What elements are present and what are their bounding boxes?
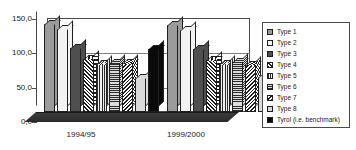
- bar-1994-95-type-7: [122, 63, 133, 112]
- bar-1999-2000-type-4: [206, 60, 217, 112]
- bar-1994-95-type-8: [135, 78, 146, 112]
- y-axis-tick-0: [32, 122, 37, 123]
- y-axis-label-150: 150,0: [2, 15, 32, 23]
- legend-swatch-icon-type-1: [267, 29, 273, 35]
- bars-layer: [36, 18, 250, 122]
- legend-item-type-6: Type 6: [267, 81, 346, 92]
- legend-item-type-3: Type 3: [267, 48, 346, 59]
- x-axis-label-1999-2000: 1999/2000: [151, 131, 221, 139]
- bar-1994-95-type-3: [70, 48, 81, 112]
- legend-label-tyrol-benchmark: Tyrol (i.e. benchmark): [277, 116, 340, 123]
- legend-item-type-2: Type 2: [267, 37, 346, 48]
- legend-swatch-icon-type-2: [267, 40, 273, 46]
- chart-legend: Type 1 Type 2 Type 3 Type 4 Type 5 Type …: [262, 22, 350, 128]
- legend-swatch-icon-type-6: [267, 84, 273, 90]
- legend-label-type-3: Type 3: [277, 50, 297, 57]
- bar-1999-2000-type-6: [232, 62, 243, 112]
- bar-1999-2000-type-5: [219, 64, 230, 112]
- legend-item-type-4: Type 4: [267, 59, 346, 70]
- legend-swatch-icon-type-7: [267, 95, 273, 101]
- legend-item-type-1: Type 1: [267, 26, 346, 37]
- legend-label-type-8: Type 8: [277, 105, 297, 112]
- legend-item-type-8: Type 8: [267, 103, 346, 114]
- legend-label-type-4: Type 4: [277, 61, 297, 68]
- legend-swatch-icon-type-4: [267, 62, 273, 68]
- legend-swatch-icon-type-8: [267, 106, 273, 112]
- legend-swatch-icon-type-5: [267, 73, 273, 79]
- bar-1999-2000-type-1: [167, 25, 178, 112]
- legend-item-type-7: Type 7: [267, 92, 346, 103]
- legend-item-tyrol-benchmark: Tyrol (i.e. benchmark): [267, 114, 346, 125]
- legend-label-type-2: Type 2: [277, 39, 297, 46]
- y-axis-label-100: 100,0: [2, 49, 32, 57]
- plot-area: [36, 18, 250, 122]
- legend-item-type-5: Type 5: [267, 70, 346, 81]
- bar-1994-95-type-4: [83, 59, 94, 112]
- legend-swatch-icon-type-3: [267, 51, 273, 57]
- bar-1999-2000-type-3: [193, 49, 204, 112]
- bar-1994-95-type-6: [109, 63, 120, 112]
- bar-1994-95-type-1: [44, 24, 55, 112]
- legend-label-type-5: Type 5: [277, 72, 297, 79]
- bar-chart: 150,0 100,0 50,0 0,0: [0, 0, 356, 150]
- legend-label-type-6: Type 6: [277, 83, 297, 90]
- legend-label-type-7: Type 7: [277, 94, 297, 101]
- bar-1994-95-type-5: [96, 64, 107, 112]
- bar-1999-2000-type-2: [180, 30, 191, 112]
- bar-1999-2000-type-7: [245, 65, 256, 112]
- y-axis-label-50: 50,0: [2, 84, 32, 92]
- legend-swatch-icon-tyrol-benchmark: [267, 117, 273, 123]
- legend-label-type-1: Type 1: [277, 28, 297, 35]
- x-axis-label-1994-95: 1994/95: [46, 131, 116, 139]
- bar-1994-95-type-2: [57, 29, 68, 112]
- bar-1994-95-tyrol-benchmark: [148, 49, 159, 112]
- bar-side-face: [159, 40, 164, 106]
